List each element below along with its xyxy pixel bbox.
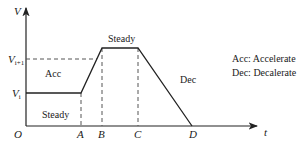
origin-label: O bbox=[14, 128, 22, 140]
v-i1-label: Vi+1 bbox=[8, 53, 25, 67]
tick-d-label: D bbox=[188, 128, 197, 140]
dec-label: Dec bbox=[180, 74, 197, 85]
y-axis-label: V bbox=[14, 5, 22, 17]
x-axis-label: t bbox=[264, 126, 268, 138]
tick-c-label: C bbox=[134, 128, 142, 140]
legend-acc: Acc: Accelerate bbox=[232, 53, 296, 64]
tick-b-label: B bbox=[98, 128, 105, 140]
legend-dec: Dec: Decalerate bbox=[232, 67, 297, 78]
tick-a-label: A bbox=[76, 128, 84, 140]
steady-high-label: Steady bbox=[108, 33, 135, 44]
acc-label: Acc bbox=[45, 68, 62, 79]
velocity-profile-diagram: V t O Vi+1 Vi A B C D Steady Acc Steady … bbox=[0, 0, 302, 151]
steady-low-label: Steady bbox=[42, 109, 69, 120]
v-i-label: Vi bbox=[12, 87, 21, 101]
